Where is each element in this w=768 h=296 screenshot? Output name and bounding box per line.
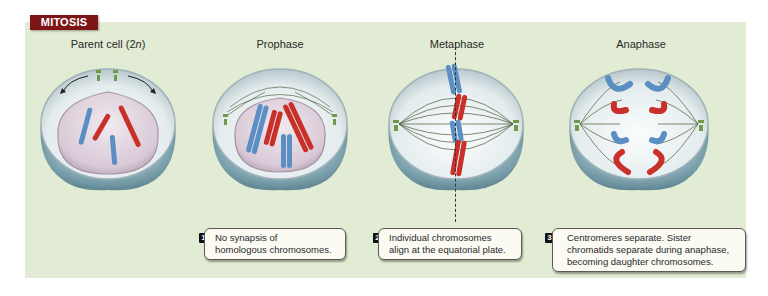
cell-parent — [33, 62, 183, 201]
stage-title-prophase: Prophase — [205, 38, 355, 50]
callout-line: homologous chromosomes. — [211, 244, 337, 256]
callout-line: align at the equatorial plate. — [385, 244, 513, 256]
cell-metaphase — [381, 62, 531, 201]
callout-centromeres-separate: Centromeres separate. Sister chromatids … — [552, 228, 746, 272]
stage-title-parent-cell: Parent cell (2n) — [33, 38, 183, 50]
stage-title-anaphase: Anaphase — [566, 38, 716, 50]
callout-equatorial-plate: Individual chromosomes align at the equa… — [378, 228, 522, 260]
callout-line: becoming daughter chromosomes. — [559, 256, 737, 268]
callout-line: No synapsis of — [211, 232, 337, 244]
cell-prophase — [205, 62, 355, 201]
callout-line: Individual chromosomes — [385, 232, 513, 244]
equatorial-plate-line — [455, 42, 456, 222]
stage-title-metaphase: Metaphase — [382, 38, 532, 50]
mitosis-title-tab: MITOSIS — [30, 15, 98, 30]
callout-no-synapsis: No synapsis of homologous chromosomes. — [204, 228, 346, 260]
callout-line: Centromeres separate. Sister — [559, 232, 737, 244]
callout-line: chromatids separate during anaphase, — [559, 244, 737, 256]
cell-anaphase — [560, 62, 718, 201]
